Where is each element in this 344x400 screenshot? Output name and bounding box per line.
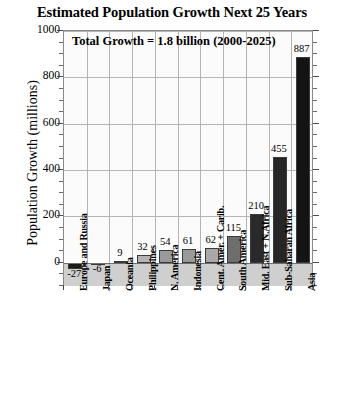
y-tick-minor <box>59 146 63 147</box>
x-category-label: Cent. Amer. + Carib. <box>215 206 226 291</box>
x-tick-mark <box>199 285 200 290</box>
plot-area <box>63 30 313 285</box>
y-tick-label: 800 <box>20 70 60 82</box>
y-tick-mark <box>57 76 63 77</box>
bar-value-label: 887 <box>290 44 313 55</box>
y-tick-label: 600 <box>20 117 60 129</box>
y-tick-minor <box>59 181 63 182</box>
y-tick-mark <box>313 169 319 170</box>
y-tick-minor <box>313 227 317 228</box>
x-category-label: Indonesia <box>192 251 203 291</box>
x-category-label: Mid. East + N.Africa <box>260 206 271 291</box>
y-tick-minor <box>59 250 63 251</box>
y-tick-minor <box>59 111 63 112</box>
x-category-label: Philippines <box>147 245 158 291</box>
y-tick-label: 1000 <box>20 24 60 36</box>
x-category-label: N. America <box>169 245 180 291</box>
y-tick-minor <box>59 42 63 43</box>
y-tick-label: 200 <box>20 209 60 221</box>
x-category-label: Asia <box>306 273 317 291</box>
y-tick-minor <box>313 42 317 43</box>
y-tick-minor <box>313 181 317 182</box>
x-category-label: Europe and Russia <box>78 213 89 291</box>
y-tick-minor <box>313 111 317 112</box>
y-tick-minor <box>59 227 63 228</box>
x-tick-mark <box>131 285 132 290</box>
y-tick-mark <box>57 215 63 216</box>
y-tick-minor <box>59 239 63 240</box>
x-tick-mark <box>268 285 269 290</box>
x-tick-mark <box>108 285 109 290</box>
bar <box>296 57 310 263</box>
y-tick-mark <box>313 123 319 124</box>
y-tick-mark <box>57 30 63 31</box>
gridline-horizontal <box>64 31 312 32</box>
y-tick-minor <box>313 192 317 193</box>
x-category-label: Sub-Saharan Africa <box>283 209 294 291</box>
gridline-vertical <box>109 31 110 284</box>
y-tick-label: 0 <box>20 256 60 268</box>
y-tick-mark <box>57 262 63 263</box>
y-tick-minor <box>59 134 63 135</box>
chart-figure: Estimated Population Growth Next 25 Year… <box>0 0 344 400</box>
total-growth-annotation: Total Growth = 1.8 billion (2000-2025) <box>72 34 276 49</box>
gridline-vertical <box>200 31 201 284</box>
y-tick-label: 400 <box>20 163 60 175</box>
x-category-label: Oceania <box>124 257 135 291</box>
y-tick-minor <box>59 158 63 159</box>
y-tick-minor <box>313 146 317 147</box>
y-tick-mark <box>313 30 319 31</box>
y-tick-minor <box>313 53 317 54</box>
y-tick-minor <box>313 65 317 66</box>
x-tick-mark <box>86 285 87 290</box>
y-tick-minor <box>59 100 63 101</box>
y-tick-mark <box>57 169 63 170</box>
x-tick-mark <box>177 285 178 290</box>
x-tick-mark <box>222 285 223 290</box>
y-tick-minor <box>313 239 317 240</box>
x-tick-mark <box>245 285 246 290</box>
bar-value-label: 455 <box>268 144 291 155</box>
y-tick-mark <box>57 123 63 124</box>
chart-title: Estimated Population Growth Next 25 Year… <box>0 4 344 21</box>
x-category-label: Japan <box>101 266 112 291</box>
y-tick-minor <box>59 65 63 66</box>
y-tick-minor <box>59 204 63 205</box>
bar-value-label: 61 <box>177 236 200 247</box>
y-tick-minor <box>313 88 317 89</box>
y-tick-minor <box>313 100 317 101</box>
y-tick-minor <box>59 53 63 54</box>
y-tick-minor <box>59 88 63 89</box>
gridline-horizontal <box>64 124 312 125</box>
x-tick-mark <box>313 285 314 290</box>
y-tick-minor <box>313 134 317 135</box>
x-tick-mark <box>154 285 155 290</box>
gridline-horizontal <box>64 77 312 78</box>
x-tick-mark <box>290 285 291 290</box>
y-tick-mark <box>313 215 319 216</box>
y-tick-minor <box>313 204 317 205</box>
y-tick-minor <box>313 158 317 159</box>
y-tick-mark <box>313 262 319 263</box>
y-tick-minor <box>313 250 317 251</box>
x-category-label: South America <box>237 230 248 291</box>
x-tick-mark <box>63 285 64 290</box>
y-tick-mark <box>313 76 319 77</box>
y-tick-minor <box>59 192 63 193</box>
